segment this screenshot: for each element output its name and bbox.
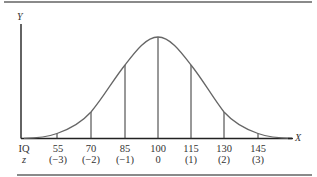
tick-z-70: (−2) (76, 154, 106, 165)
tick-iq-145: 145 (243, 143, 273, 154)
tick-z-100: 0 (143, 154, 173, 165)
y-axis-label: Y (17, 11, 23, 22)
tick-iq-130: 130 (209, 143, 239, 154)
tick-z-145: (3) (243, 154, 273, 165)
x-axis-label: X (295, 132, 301, 143)
iq-row-label: IQ (9, 143, 39, 154)
tick-iq-100: 100 (143, 143, 173, 154)
tick-z-55: (−3) (43, 154, 73, 165)
tick-z-130: (2) (209, 154, 239, 165)
tick-z-85: (−1) (110, 154, 140, 165)
tick-iq-85: 85 (110, 143, 140, 154)
tick-iq-115: 115 (176, 143, 206, 154)
tick-iq-55: 55 (43, 143, 73, 154)
tick-iq-70: 70 (76, 143, 106, 154)
z-row-label: z (9, 154, 39, 165)
tick-z-115: (1) (176, 154, 206, 165)
